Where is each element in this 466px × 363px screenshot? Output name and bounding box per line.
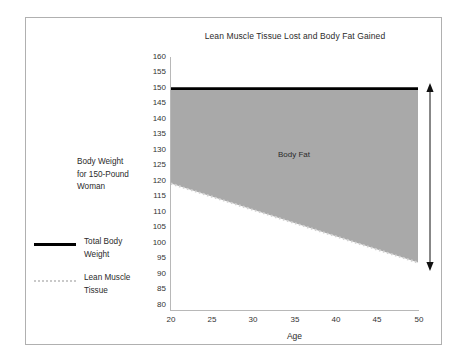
legend-label-lean-muscle-tissue: Lean Muscle Tissue [84,272,162,297]
x-axis-line [170,310,419,311]
body-weight-annotation-line2: for 150-Pound [77,169,161,182]
chart-title: Lean Muscle Tissue Lost and Body Fat Gai… [150,31,440,41]
y-tick-145: 145 [140,98,166,107]
x-tick-50: 50 [404,315,434,324]
body-weight-annotation-line3: Woman [77,181,161,194]
y-tick-140: 140 [140,114,166,123]
x-tick-30: 30 [238,315,268,324]
legend-label-total-body-weight-line2: Weight [84,249,162,262]
x-axis-title: Age [171,331,418,341]
legend-item-total-body-weight: Total Body Weight [34,236,164,272]
solid-line-swatch-icon [34,243,76,254]
x-tick-40: 40 [321,315,351,324]
body-weight-annotation: Body Weight for 150-Pound Woman [77,156,161,194]
body-fat-area [171,89,418,263]
body-fat-area-label: Body Fat [219,150,369,159]
y-tick-130: 130 [140,145,166,154]
legend-label-total-body-weight-line1: Total Body [84,236,162,249]
y-tick-110: 110 [140,207,166,216]
y-tick-160: 160 [140,52,166,61]
legend-item-lean-muscle-tissue: Lean Muscle Tissue [34,272,164,308]
plot-area: Body Fat [171,57,418,310]
dotted-line-swatch-icon [34,280,76,290]
chart-figure: Lean Muscle Tissue Lost and Body Fat Gai… [0,0,466,363]
y-tick-135: 135 [140,129,166,138]
y-tick-155: 155 [140,67,166,76]
legend-label-lean-muscle-tissue-line2: Tissue [84,285,162,298]
legend-label-lean-muscle-tissue-line1: Lean Muscle [84,272,162,285]
y-tick-150: 150 [140,83,166,92]
chart-legend: Total Body Weight Lean Muscle Tissue [34,236,164,308]
y-axis-line [170,57,171,311]
x-tick-35: 35 [280,315,310,324]
x-tick-20: 20 [156,315,186,324]
x-tick-25: 25 [197,315,227,324]
body-weight-annotation-line1: Body Weight [77,156,161,169]
legend-label-total-body-weight: Total Body Weight [84,236,162,261]
body-fat-range-arrow [422,81,438,273]
x-tick-45: 45 [362,315,392,324]
y-tick-105: 105 [140,222,166,231]
plot-svg [171,57,418,310]
